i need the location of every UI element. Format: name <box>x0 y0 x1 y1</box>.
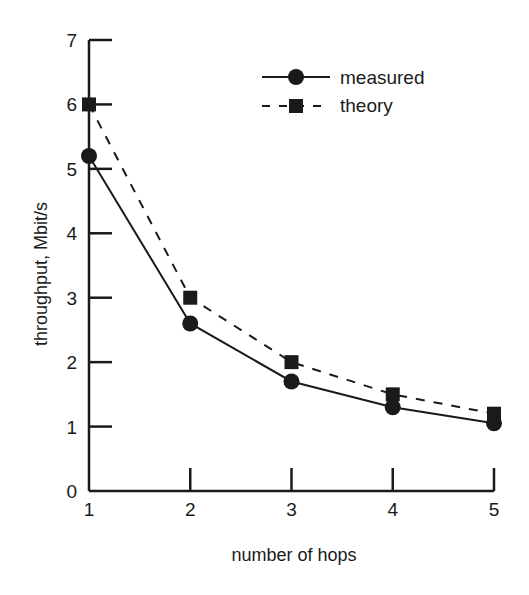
legend-item-theory: theory <box>262 95 393 116</box>
y-tick-label: 5 <box>66 159 77 180</box>
circle-marker-icon <box>81 148 97 164</box>
circle-marker-icon <box>182 315 198 331</box>
x-axis-title: number of hops <box>231 545 356 565</box>
square-marker-icon <box>289 99 303 113</box>
throughput-chart: 01234567 12345 throughput, Mbit/s number… <box>0 0 529 595</box>
legend-label-theory: theory <box>340 95 393 116</box>
data-series <box>81 97 502 431</box>
circle-marker-icon <box>288 69 304 85</box>
x-axis-ticks: 12345 <box>84 468 500 520</box>
y-tick-label: 2 <box>66 352 77 373</box>
x-tick-label: 5 <box>489 499 500 520</box>
x-tick-label: 4 <box>387 499 398 520</box>
y-tick-label: 6 <box>66 94 77 115</box>
y-tick-label: 0 <box>66 481 77 502</box>
x-tick-label: 2 <box>185 499 196 520</box>
y-tick-label: 7 <box>66 30 77 51</box>
legend-item-measured: measured <box>262 67 425 88</box>
square-marker-icon <box>285 355 299 369</box>
y-tick-label: 1 <box>66 417 77 438</box>
y-tick-label: 3 <box>66 288 77 309</box>
square-marker-icon <box>183 291 197 305</box>
circle-marker-icon <box>385 399 401 415</box>
series-measured <box>81 148 502 431</box>
circle-marker-icon <box>486 415 502 431</box>
y-axis-title: throughput, Mbit/s <box>31 202 51 346</box>
x-tick-label: 1 <box>84 499 95 520</box>
series-theory <box>82 97 501 420</box>
legend-label-measured: measured <box>340 67 425 88</box>
circle-marker-icon <box>284 373 300 389</box>
y-tick-label: 4 <box>66 223 77 244</box>
square-marker-icon <box>82 97 96 111</box>
x-tick-label: 3 <box>286 499 297 520</box>
legend: measured theory <box>262 67 425 116</box>
